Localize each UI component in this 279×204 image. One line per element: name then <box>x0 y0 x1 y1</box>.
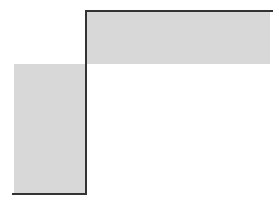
lower-left-shaded-block <box>14 64 85 193</box>
vertical-edge-line <box>85 10 87 195</box>
top-edge-line <box>85 10 273 12</box>
bottom-edge-line <box>12 193 87 195</box>
upper-right-shaded-band <box>87 12 270 64</box>
step-diagram <box>0 0 279 204</box>
